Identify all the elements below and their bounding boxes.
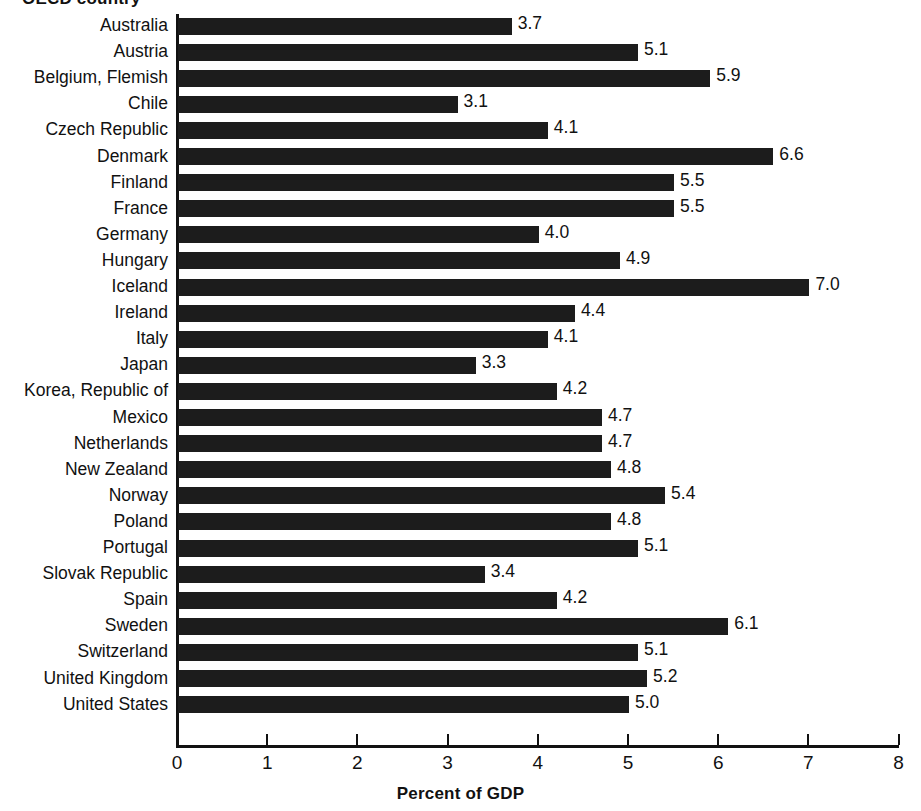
bar-fill	[178, 331, 548, 348]
bar-value-label: 3.1	[464, 92, 488, 111]
bar-row: Korea, Republic of4.2	[0, 379, 921, 405]
category-label: Italy	[0, 329, 168, 348]
bar-fill	[178, 540, 638, 557]
bar-value-label: 5.5	[680, 171, 704, 190]
bar-fill	[178, 592, 557, 609]
bar-value-label: 3.3	[482, 353, 506, 372]
category-label: United States	[0, 695, 168, 714]
bar[interactable]	[178, 200, 674, 217]
bar[interactable]	[178, 409, 602, 426]
bar[interactable]	[178, 540, 638, 557]
bar[interactable]	[178, 357, 476, 374]
category-label: Czech Republic	[0, 120, 168, 139]
bar-value-label: 5.1	[644, 640, 668, 659]
bar-fill	[178, 96, 458, 113]
bar[interactable]	[178, 305, 575, 322]
x-tick-label: 5	[623, 752, 634, 774]
bar-row: United States5.0	[0, 693, 921, 719]
x-tick-label: 8	[893, 752, 904, 774]
bar-value-label: 5.2	[653, 667, 677, 686]
bar-value-label: 5.5	[680, 197, 704, 216]
bar[interactable]	[178, 618, 728, 635]
bar-value-label: 6.6	[779, 145, 803, 164]
bar-fill	[178, 44, 638, 61]
bar-value-label: 4.4	[581, 301, 605, 320]
bar[interactable]	[178, 566, 485, 583]
category-label: Mexico	[0, 408, 168, 427]
x-tick	[356, 734, 358, 745]
bar-fill	[178, 279, 809, 296]
category-label: Chile	[0, 94, 168, 113]
bar[interactable]	[178, 383, 557, 400]
category-label: Austria	[0, 42, 168, 61]
x-tick-label: 0	[172, 752, 183, 774]
bar-row: United Kingdom5.2	[0, 667, 921, 693]
bar-fill	[178, 513, 611, 530]
plot-area: Australia3.7Austria5.1Belgium, Flemish5.…	[0, 0, 921, 745]
bar[interactable]	[178, 513, 611, 530]
bar-row: Hungary4.9	[0, 249, 921, 275]
bar-row: Japan3.3	[0, 353, 921, 379]
bar[interactable]	[178, 226, 539, 243]
category-label: France	[0, 199, 168, 218]
bar-row: Denmark6.6	[0, 145, 921, 171]
bar-value-label: 4.8	[617, 510, 641, 529]
bar[interactable]	[178, 670, 647, 687]
bar[interactable]	[178, 122, 548, 139]
bar-fill	[178, 357, 476, 374]
bar[interactable]	[178, 279, 809, 296]
category-label: Spain	[0, 590, 168, 609]
bar-fill	[178, 435, 602, 452]
bar[interactable]	[178, 331, 548, 348]
bar-fill	[178, 670, 647, 687]
x-tick-label: 2	[352, 752, 363, 774]
category-label: Hungary	[0, 251, 168, 270]
category-label: Australia	[0, 16, 168, 35]
bar-row: Austria5.1	[0, 40, 921, 66]
bar-row: Chile3.1	[0, 92, 921, 118]
bar[interactable]	[178, 70, 710, 87]
bar-value-label: 5.0	[635, 693, 659, 712]
bar-value-label: 4.0	[545, 223, 569, 242]
x-tick	[176, 734, 178, 745]
bar-value-label: 4.7	[608, 432, 632, 451]
bar[interactable]	[178, 592, 557, 609]
bar[interactable]	[178, 174, 674, 191]
bar[interactable]	[178, 44, 638, 61]
bar-value-label: 4.8	[617, 458, 641, 477]
bar[interactable]	[178, 487, 665, 504]
bar-row: Ireland4.4	[0, 301, 921, 327]
bar-value-label: 5.1	[644, 40, 668, 59]
category-label: Norway	[0, 486, 168, 505]
bar-row: Netherlands4.7	[0, 432, 921, 458]
x-tick-label: 3	[442, 752, 453, 774]
bar-value-label: 3.7	[518, 14, 542, 33]
bar-row: Slovak Republic3.4	[0, 562, 921, 588]
category-label: Korea, Republic of	[0, 381, 168, 400]
bar-row: France5.5	[0, 197, 921, 223]
bar[interactable]	[178, 148, 773, 165]
bar-row: New Zealand4.8	[0, 458, 921, 484]
bar-value-label: 4.1	[554, 118, 578, 137]
category-label: Germany	[0, 225, 168, 244]
category-label: Poland	[0, 512, 168, 531]
bar[interactable]	[178, 644, 638, 661]
bar-fill	[178, 487, 665, 504]
bar-fill	[178, 252, 620, 269]
bar[interactable]	[178, 461, 611, 478]
bar-value-label: 4.7	[608, 406, 632, 425]
bar[interactable]	[178, 96, 458, 113]
bar-fill	[178, 305, 575, 322]
bar-fill	[178, 696, 629, 713]
bar[interactable]	[178, 696, 629, 713]
x-tick-label: 7	[803, 752, 814, 774]
bar[interactable]	[178, 18, 512, 35]
bar-value-label: 4.2	[563, 379, 587, 398]
bar[interactable]	[178, 435, 602, 452]
bar[interactable]	[178, 252, 620, 269]
bar-fill	[178, 148, 773, 165]
category-label: Denmark	[0, 147, 168, 166]
x-tick	[898, 734, 900, 745]
category-label: Ireland	[0, 303, 168, 322]
bar-chart: OECD country Australia3.7Austria5.1Belgi…	[0, 0, 921, 811]
